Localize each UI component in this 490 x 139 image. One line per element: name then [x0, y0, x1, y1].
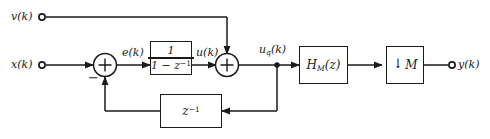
junction-dot-uq	[274, 62, 279, 67]
delay-block[interactable]: z−1	[160, 94, 222, 128]
delay-exp: −1	[189, 105, 200, 114]
filter-base: H	[307, 58, 317, 72]
terminal-y-output	[449, 62, 455, 68]
terminal-v-input	[39, 14, 45, 20]
adder-first-minus-label: −	[88, 71, 99, 84]
filter-block[interactable]: HM(z)	[299, 46, 348, 84]
filter-sub: M	[317, 63, 325, 72]
integrator-numerator: 1	[165, 45, 178, 58]
downsampler-factor: M	[405, 58, 417, 72]
filter-tail: (z)	[325, 58, 341, 72]
block-diagram: v(k) x(k) e(k) u(k) uq(k) y(k) − 1 1 − z…	[0, 0, 490, 139]
integrator-fraction: 1 1 − z−1	[148, 45, 194, 71]
integrator-denominator-exp: −1	[180, 59, 191, 68]
label-v: v(k)	[11, 11, 32, 22]
label-uq-tail: (k)	[271, 43, 286, 56]
downsampler-block[interactable]: ↓M	[386, 46, 424, 84]
downsampler-label: ↓M	[392, 58, 417, 72]
terminal-x-input	[39, 62, 45, 68]
label-x: x(k)	[11, 59, 32, 70]
label-uq: uq(k)	[259, 44, 286, 56]
integrator-block[interactable]: 1 1 − z−1	[150, 41, 192, 75]
integrator-denominator: 1 − z−1	[148, 59, 194, 72]
filter-label: HM(z)	[307, 58, 341, 73]
label-e: e(k)	[122, 47, 144, 58]
label-y: y(k)	[458, 59, 479, 70]
delay-label: z−1	[182, 104, 199, 118]
down-arrow-icon: ↓	[392, 59, 403, 69]
integrator-denominator-base: 1 − z	[151, 59, 180, 72]
label-u: u(k)	[196, 47, 218, 58]
